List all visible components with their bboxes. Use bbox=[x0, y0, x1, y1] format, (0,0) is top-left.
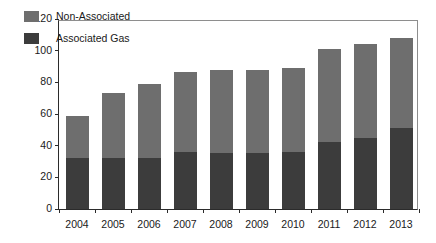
bar-2011 bbox=[318, 49, 341, 209]
bar-segment-associated-gas bbox=[210, 153, 233, 209]
y-tick-mark bbox=[55, 177, 59, 178]
chart-legend: Non-AssociatedAssociated Gas bbox=[24, 5, 224, 49]
x-tick-mark bbox=[167, 209, 168, 213]
y-tick-mark bbox=[55, 145, 59, 146]
x-tick-mark bbox=[383, 209, 384, 213]
x-tick-label-2012: 2012 bbox=[353, 218, 376, 231]
bar-2007 bbox=[174, 72, 197, 209]
bar-segment-associated-gas bbox=[246, 153, 269, 209]
bar-segment-non-associated bbox=[66, 116, 89, 157]
x-tick-mark bbox=[419, 209, 420, 213]
x-tick-mark bbox=[131, 209, 132, 213]
bar-segment-non-associated bbox=[174, 72, 197, 152]
x-tick-label-2007: 2007 bbox=[173, 218, 196, 231]
bar-segment-non-associated bbox=[210, 70, 233, 152]
legend-swatch-icon bbox=[24, 11, 39, 22]
bar-segment-non-associated bbox=[318, 49, 341, 142]
x-tick-label-2004: 2004 bbox=[65, 218, 88, 231]
y-tick-label: 80 bbox=[40, 75, 52, 88]
bar-2006 bbox=[138, 84, 161, 209]
x-tick-mark bbox=[275, 209, 276, 213]
legend-label: Non-Associated bbox=[56, 10, 130, 23]
bar-segment-associated-gas bbox=[174, 152, 197, 209]
legend-item: Associated Gas bbox=[24, 27, 224, 49]
x-tick-label-2006: 2006 bbox=[137, 218, 160, 231]
bar-segment-associated-gas bbox=[66, 158, 89, 209]
bar-2013 bbox=[390, 38, 413, 209]
y-tick-label: 0 bbox=[46, 202, 52, 215]
bar-2009 bbox=[246, 70, 269, 209]
x-tick-label-2008: 2008 bbox=[209, 218, 232, 231]
bar-segment-associated-gas bbox=[102, 158, 125, 209]
x-tick-label-2013: 2013 bbox=[389, 218, 412, 231]
x-tick-mark bbox=[95, 209, 96, 213]
bar-segment-associated-gas bbox=[282, 152, 305, 209]
bar-segment-non-associated bbox=[138, 84, 161, 158]
bar-segment-non-associated bbox=[354, 44, 377, 137]
y-tick-label: 60 bbox=[40, 107, 52, 120]
bar-2004 bbox=[66, 116, 89, 209]
x-tick-label-2005: 2005 bbox=[101, 218, 124, 231]
bar-segment-associated-gas bbox=[318, 142, 341, 209]
bar-2008 bbox=[210, 70, 233, 209]
stacked-bar-chart: Million cm/d 020406080100120 20042005200… bbox=[0, 0, 436, 243]
bar-segment-non-associated bbox=[282, 68, 305, 152]
bar-2012 bbox=[354, 44, 377, 209]
x-tick-mark bbox=[347, 209, 348, 213]
x-tick-label-2011: 2011 bbox=[318, 218, 341, 231]
bar-segment-associated-gas bbox=[390, 128, 413, 209]
y-tick-mark bbox=[55, 50, 59, 51]
y-tick-label: 40 bbox=[40, 139, 52, 152]
bar-segment-non-associated bbox=[102, 93, 125, 157]
bar-2005 bbox=[102, 93, 125, 209]
x-tick-label-2009: 2009 bbox=[245, 218, 268, 231]
x-tick-mark bbox=[59, 209, 60, 213]
x-tick-mark bbox=[311, 209, 312, 213]
y-tick-mark bbox=[55, 114, 59, 115]
bar-segment-non-associated bbox=[390, 38, 413, 128]
legend-swatch-icon bbox=[24, 33, 39, 44]
y-tick-label: 20 bbox=[40, 170, 52, 183]
legend-item: Non-Associated bbox=[24, 5, 224, 27]
x-tick-label-2010: 2010 bbox=[281, 218, 304, 231]
bar-segment-associated-gas bbox=[138, 158, 161, 209]
x-tick-mark bbox=[203, 209, 204, 213]
bar-segment-associated-gas bbox=[354, 138, 377, 209]
bar-2010 bbox=[282, 68, 305, 209]
legend-label: Associated Gas bbox=[56, 32, 130, 45]
bar-segment-non-associated bbox=[246, 70, 269, 152]
y-tick-mark bbox=[55, 82, 59, 83]
x-tick-mark bbox=[239, 209, 240, 213]
